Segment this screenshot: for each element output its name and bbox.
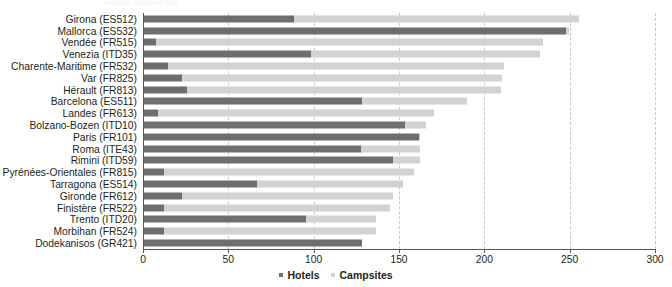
bar-row[interactable]: Girona (ES512): [143, 13, 655, 25]
bar-segment-hotels[interactable]: [144, 110, 158, 117]
stacked-bar[interactable]: [144, 27, 569, 34]
bar-segment-hotels[interactable]: [144, 181, 257, 188]
x-tick-50: [228, 249, 229, 253]
bar-segment-hotels[interactable]: [144, 98, 362, 105]
bar-segment-hotels[interactable]: [144, 157, 393, 164]
bar-segment-hotels[interactable]: [144, 228, 164, 235]
stacked-bar-chart: partially cropped text Girona (ES512)Mal…: [0, 0, 672, 287]
bar-row[interactable]: Rimini (ITD59): [143, 155, 655, 167]
bar-segment-hotels[interactable]: [144, 169, 164, 176]
bar-segment-hotels[interactable]: [144, 86, 187, 93]
bar-segment-hotels[interactable]: [144, 27, 566, 34]
stacked-bar[interactable]: [144, 51, 540, 58]
bar-row[interactable]: Var (FR825): [143, 72, 655, 84]
stacked-bar[interactable]: [144, 181, 403, 188]
bar-segment-campsites[interactable]: [362, 98, 466, 105]
category-label: Girona (ES512): [65, 13, 137, 24]
stacked-bar[interactable]: [144, 216, 376, 223]
bar-row[interactable]: Roma (ITE43): [143, 143, 655, 155]
stacked-bar[interactable]: [144, 192, 393, 199]
bar-segment-hotels[interactable]: [144, 15, 294, 22]
category-label: Bolzano-Bozen (ITD10): [29, 120, 137, 131]
bar-row[interactable]: Charente-Maritime (FR532): [143, 60, 655, 72]
stacked-bar[interactable]: [144, 74, 502, 81]
bar-row[interactable]: Hérault (FR813): [143, 84, 655, 96]
bar-row[interactable]: Tarragona (ES514): [143, 178, 655, 190]
bar-segment-hotels[interactable]: [144, 122, 405, 129]
category-label: Roma (ITE43): [72, 143, 137, 154]
category-label: Hérault (FR813): [63, 84, 137, 95]
bar-segment-campsites[interactable]: [419, 133, 421, 140]
x-tick-100: [314, 249, 315, 253]
bar-segment-campsites[interactable]: [566, 27, 569, 34]
stacked-bar[interactable]: [144, 169, 414, 176]
clipped-top-text: partially cropped text: [104, 0, 364, 5]
bar-row[interactable]: Landes (FR613): [143, 107, 655, 119]
bar-segment-campsites[interactable]: [187, 86, 501, 93]
stacked-bar[interactable]: [144, 145, 420, 152]
bar-row[interactable]: Vendée (FR515): [143, 37, 655, 49]
bar-segment-campsites[interactable]: [158, 110, 434, 117]
category-label: Var (FR825): [81, 72, 137, 83]
stacked-bar[interactable]: [144, 133, 420, 140]
bar-row[interactable]: Bolzano-Bozen (ITD10): [143, 119, 655, 131]
stacked-bar[interactable]: [144, 110, 434, 117]
bar-segment-hotels[interactable]: [144, 192, 182, 199]
legend-item-hotels[interactable]: Hotels: [279, 269, 319, 281]
bar-segment-campsites[interactable]: [182, 192, 394, 199]
x-tick-label: 200: [476, 254, 493, 266]
bar-segment-campsites[interactable]: [311, 51, 540, 58]
bar-row[interactable]: Trento (ITD20): [143, 214, 655, 226]
legend-swatch-icon: [331, 273, 335, 277]
bar-segment-campsites[interactable]: [182, 74, 503, 81]
bar-row[interactable]: Gironde (FR612): [143, 190, 655, 202]
bar-segment-campsites[interactable]: [168, 63, 504, 70]
stacked-bar[interactable]: [144, 228, 376, 235]
bar-segment-hotels[interactable]: [144, 74, 182, 81]
bar-row[interactable]: Dodekanisos (GR421): [143, 237, 655, 249]
bar-segment-hotels[interactable]: [144, 133, 419, 140]
bar-segment-campsites[interactable]: [164, 169, 413, 176]
category-label: Tarragona (ES514): [50, 179, 137, 190]
stacked-bar[interactable]: [144, 122, 426, 129]
category-label: Finistère (FR522): [57, 202, 137, 213]
category-label: Morbihan (FR524): [53, 226, 137, 237]
bar-segment-campsites[interactable]: [156, 39, 543, 46]
bar-segment-campsites[interactable]: [393, 157, 420, 164]
bar-row[interactable]: Pyrénées-Orientales (FR815): [143, 166, 655, 178]
bar-row[interactable]: Barcelona (ES511): [143, 96, 655, 108]
stacked-bar[interactable]: [144, 15, 579, 22]
bar-segment-campsites[interactable]: [164, 228, 376, 235]
legend-item-campsites[interactable]: Campsites: [331, 269, 392, 281]
stacked-bar[interactable]: [144, 63, 504, 70]
bar-segment-hotels[interactable]: [144, 39, 156, 46]
category-label: Venezia (ITD35): [63, 49, 137, 60]
bar-row[interactable]: Paris (FR101): [143, 131, 655, 143]
bar-segment-campsites[interactable]: [164, 204, 389, 211]
bar-segment-hotels[interactable]: [144, 63, 168, 70]
bar-row[interactable]: Venezia (ITD35): [143, 48, 655, 60]
bar-segment-hotels[interactable]: [144, 51, 311, 58]
stacked-bar[interactable]: [144, 86, 501, 93]
stacked-bar[interactable]: [144, 39, 543, 46]
bar-segment-hotels[interactable]: [144, 204, 164, 211]
category-label: Pyrénées-Orientales (FR815): [3, 167, 137, 178]
bar-row[interactable]: Morbihan (FR524): [143, 225, 655, 237]
bar-row[interactable]: Mallorca (ES532): [143, 25, 655, 37]
bar-segment-campsites[interactable]: [294, 15, 579, 22]
bar-segment-hotels[interactable]: [144, 145, 361, 152]
x-tick-label: 300: [646, 254, 663, 266]
bar-segment-campsites[interactable]: [361, 145, 421, 152]
x-tick-label: 150: [390, 254, 407, 266]
stacked-bar[interactable]: [144, 157, 420, 164]
stacked-bar[interactable]: [144, 240, 362, 247]
chart-legend: HotelsCampsites: [0, 269, 672, 281]
bar-segment-campsites[interactable]: [306, 216, 376, 223]
bar-segment-campsites[interactable]: [405, 122, 425, 129]
bar-segment-hotels[interactable]: [144, 216, 306, 223]
bar-segment-campsites[interactable]: [257, 181, 404, 188]
bar-row[interactable]: Finistère (FR522): [143, 202, 655, 214]
stacked-bar[interactable]: [144, 98, 467, 105]
stacked-bar[interactable]: [144, 204, 390, 211]
bar-segment-hotels[interactable]: [144, 240, 362, 247]
